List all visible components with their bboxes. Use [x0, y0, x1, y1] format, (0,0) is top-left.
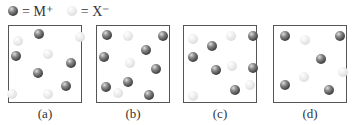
anion-ball-icon [75, 32, 85, 42]
anion-ball-icon [300, 35, 310, 45]
cation-ball-icon [99, 52, 109, 62]
legend-item-cation: = M⁺ [8, 3, 53, 20]
cation-ball-icon [102, 30, 112, 40]
cation-ball-icon [141, 45, 151, 55]
anion-ball-icon [299, 72, 309, 82]
cation-ball-icon [101, 82, 111, 92]
cation-ball-icon [34, 29, 44, 39]
cation-ball-icon [248, 63, 258, 73]
legend-item-anion: = X⁻ [67, 3, 110, 20]
panel-box [8, 25, 82, 103]
cation-ball-icon [11, 51, 21, 61]
legend-label-cation: = M⁺ [22, 3, 53, 20]
legend: = M⁺ = X⁻ [8, 2, 123, 20]
panel-caption: (c) [183, 106, 257, 122]
anion-ball-icon [13, 36, 23, 46]
anion-ball-icon [7, 89, 17, 99]
cation-ball-icon [280, 31, 290, 41]
anion-ball-icon [188, 34, 198, 44]
cation-ball-icon [188, 52, 198, 62]
panel-box [96, 25, 170, 103]
panel-caption: (d) [273, 106, 347, 122]
cation-ball-icon [144, 90, 154, 100]
anion-ball-icon [43, 89, 53, 99]
cation-ball-icon [207, 41, 217, 51]
cation-ball-icon [123, 77, 133, 87]
panel-caption: (b) [96, 106, 170, 122]
cation-ball-icon [324, 85, 334, 95]
cation-ball-icon [61, 81, 71, 91]
panel-box [273, 25, 347, 103]
cation-ball-icon [66, 58, 76, 68]
cation-ball-icon [158, 31, 168, 41]
cation-ball-icon [211, 65, 221, 75]
cation-ball-icon [230, 85, 240, 95]
panel-caption: (a) [8, 106, 82, 122]
anion-ball-icon [67, 6, 77, 16]
anion-ball-icon [43, 49, 53, 59]
cation-ball-icon [151, 64, 161, 74]
cation-ball-icon [280, 80, 290, 90]
anion-ball-icon [125, 58, 135, 68]
cation-ball-icon [8, 6, 18, 16]
anion-ball-icon [338, 67, 348, 77]
anion-ball-icon [113, 88, 123, 98]
cation-ball-icon [335, 31, 345, 41]
cation-ball-icon [248, 31, 258, 41]
anion-ball-icon [188, 91, 198, 101]
anion-ball-icon [226, 31, 236, 41]
anion-ball-icon [245, 80, 255, 90]
anion-ball-icon [227, 61, 237, 71]
cation-ball-icon [316, 54, 326, 64]
legend-label-anion: = X⁻ [81, 3, 110, 20]
anion-ball-icon [123, 31, 133, 41]
cation-ball-icon [33, 68, 43, 78]
panel-box [183, 25, 257, 103]
